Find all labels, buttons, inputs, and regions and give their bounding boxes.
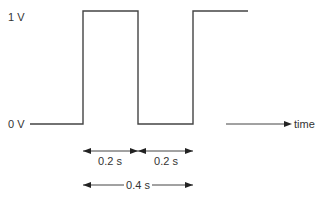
low-duration-label: 0.2 s [98,155,122,167]
period-label: 0.4 s [126,179,150,191]
time-axis-label: time [294,118,315,130]
square-wave-diagram: 1 V 0 V time 0.2 s 0.2 s 0.4 s [0,0,315,197]
high-level-label: 1 V [8,11,25,23]
square-waveform [30,11,248,124]
high-duration-label: 0.2 s [154,155,178,167]
dimension-arrow-second-half [138,148,193,154]
low-level-label: 0 V [8,118,25,130]
time-axis-arrow [226,121,292,127]
dimension-arrow-first-half [83,148,138,154]
